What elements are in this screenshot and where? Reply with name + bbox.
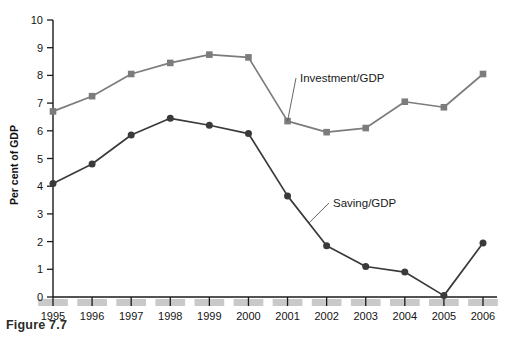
x-axis-tick-label: 2006 bbox=[471, 310, 495, 322]
y-axis-tick-label: 10 bbox=[31, 14, 43, 26]
data-point-marker bbox=[245, 54, 252, 61]
data-point-marker bbox=[480, 71, 487, 78]
x-axis-tick-label: 2004 bbox=[393, 310, 417, 322]
x-axis-tick-label: 2001 bbox=[275, 310, 299, 322]
data-point-marker bbox=[167, 115, 174, 122]
data-point-marker bbox=[128, 131, 135, 138]
x-axis-tick-label: 1999 bbox=[197, 310, 221, 322]
data-point-marker bbox=[89, 161, 96, 168]
data-point-marker bbox=[440, 292, 447, 299]
data-point-marker bbox=[323, 242, 330, 249]
x-axis-tick-label: 1996 bbox=[80, 310, 104, 322]
data-point-marker bbox=[480, 239, 487, 246]
investment-annotation-leader bbox=[288, 78, 296, 121]
y-axis-tick-label: 5 bbox=[37, 153, 43, 165]
investment-annotation-label: Investment/GDP bbox=[300, 72, 385, 84]
chart-canvas: 0123456789101995199619971998199920002001… bbox=[0, 0, 507, 341]
x-axis-tick-label: 2000 bbox=[236, 310, 260, 322]
data-point-marker bbox=[206, 122, 213, 129]
data-point-marker bbox=[89, 93, 96, 100]
figure-container: 0123456789101995199619971998199920002001… bbox=[0, 0, 507, 341]
data-point-marker bbox=[401, 269, 408, 276]
y-axis-tick-label: 9 bbox=[37, 42, 43, 54]
data-point-marker bbox=[50, 180, 57, 187]
data-point-marker bbox=[284, 192, 291, 199]
y-axis-tick-label: 2 bbox=[37, 236, 43, 248]
saving-annotation-leader bbox=[309, 203, 329, 223]
data-point-marker bbox=[441, 104, 448, 111]
figure-caption: Figure 7.7 bbox=[6, 318, 67, 332]
x-axis-tick-label: 1997 bbox=[119, 310, 143, 322]
data-point-marker bbox=[362, 125, 369, 132]
x-axis-tick-label: 2003 bbox=[353, 310, 377, 322]
y-axis-tick-label: 0 bbox=[37, 291, 43, 303]
x-axis-tick-label: 2002 bbox=[314, 310, 338, 322]
y-axis-tick-label: 6 bbox=[37, 125, 43, 137]
y-axis-tick-label: 4 bbox=[37, 180, 43, 192]
data-point-marker bbox=[206, 51, 213, 58]
series-line-saving bbox=[53, 118, 483, 295]
y-axis-tick-label: 7 bbox=[37, 97, 43, 109]
saving-annotation-label: Saving/GDP bbox=[333, 197, 397, 209]
data-point-marker bbox=[128, 71, 135, 78]
series-line-investment bbox=[53, 55, 483, 133]
y-axis-title: Per cent of GDP bbox=[8, 125, 20, 205]
x-axis-tick-label: 2005 bbox=[432, 310, 456, 322]
data-point-marker bbox=[167, 60, 174, 67]
y-axis-tick-label: 8 bbox=[37, 69, 43, 81]
data-point-marker bbox=[402, 98, 409, 105]
x-axis-tick-label: 1998 bbox=[158, 310, 182, 322]
data-point-marker bbox=[245, 130, 252, 137]
y-axis-tick-label: 3 bbox=[37, 208, 43, 220]
data-point-marker bbox=[323, 129, 330, 136]
data-point-marker bbox=[50, 108, 57, 115]
data-point-marker bbox=[362, 263, 369, 270]
y-axis-tick-label: 1 bbox=[37, 263, 43, 275]
